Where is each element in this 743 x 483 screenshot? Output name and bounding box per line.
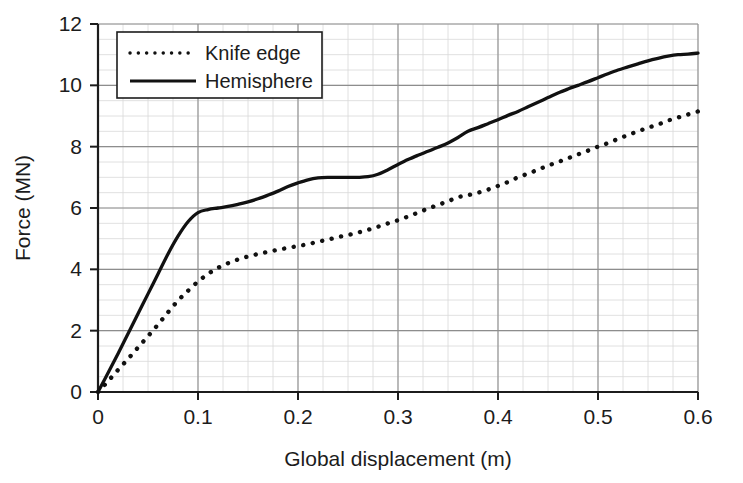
y-tick-label: 12 <box>59 12 82 35</box>
y-tick-label: 4 <box>70 257 82 280</box>
y-axis-title: Force (MN) <box>11 155 34 261</box>
chart-legend: Knife edge Hemisphere <box>117 32 322 98</box>
x-tick-label: 0.4 <box>483 405 513 428</box>
legend-label-knife-edge: Knife edge <box>205 42 301 64</box>
y-tick-label: 0 <box>70 380 82 403</box>
force-displacement-chart: 00.10.20.30.40.50.6 024681012 Global dis… <box>0 0 743 483</box>
y-tick-label: 8 <box>70 135 82 158</box>
x-tick-label: 0.3 <box>383 405 412 428</box>
x-tick-label: 0.1 <box>183 405 212 428</box>
x-axis-title: Global displacement (m) <box>284 447 512 470</box>
chart-figure: 00.10.20.30.40.50.6 024681012 Global dis… <box>0 0 743 483</box>
x-tick-label: 0.6 <box>683 405 712 428</box>
x-tick-label: 0 <box>92 405 104 428</box>
y-tick-label: 2 <box>70 319 82 342</box>
x-tick-label: 0.5 <box>583 405 612 428</box>
x-tick-label: 0.2 <box>283 405 312 428</box>
y-tick-label: 10 <box>59 73 82 96</box>
legend-label-hemisphere: Hemisphere <box>205 70 313 92</box>
chart-background <box>0 0 743 483</box>
y-tick-label: 6 <box>70 196 82 219</box>
